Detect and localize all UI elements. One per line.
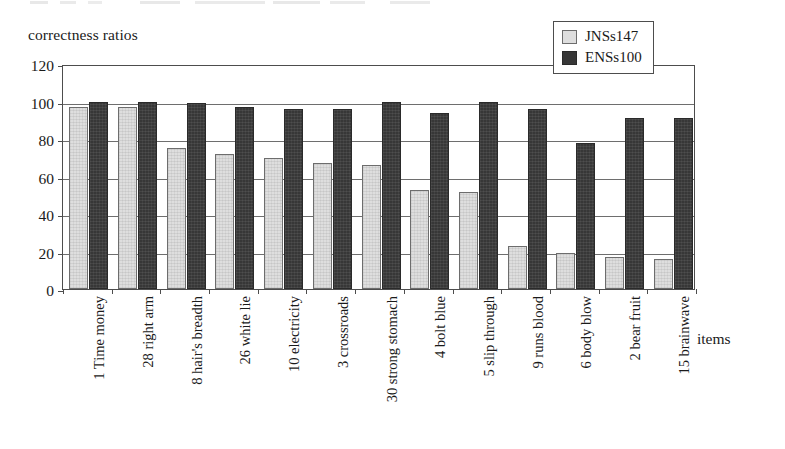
light-gray-swatch-icon (562, 30, 577, 44)
legend-item-jnss147: JNSs147 (562, 26, 642, 47)
x-tick-mark (355, 289, 356, 294)
x-category-label: 26 white lie (238, 296, 253, 364)
x-tick-mark (550, 289, 551, 294)
dark-gray-swatch-icon (562, 51, 577, 65)
bar-enss100-3 (235, 107, 254, 289)
bar-jnss147-3 (215, 154, 234, 289)
legend-label-jnss147: JNSs147 (585, 29, 638, 44)
bar-enss100-7 (430, 113, 449, 289)
x-tick-mark (599, 289, 600, 294)
legend-label-enss100: ENSs100 (585, 50, 642, 65)
x-category-label: 1 Time money (92, 296, 107, 380)
x-category-label: 6 body blow (579, 296, 594, 369)
x-tick-mark (647, 289, 648, 294)
plot-area: 020406080100120 (62, 65, 695, 290)
x-category-label: 9 runs blood (531, 296, 546, 369)
y-tick-label: 120 (31, 58, 54, 74)
x-category-label: 2 bear fruit (628, 296, 643, 360)
bar-jnss147-11 (605, 257, 624, 289)
bar-chart: correctness ratios 020406080100120 1 Tim… (0, 0, 785, 449)
bar-jnss147-5 (313, 163, 332, 289)
bar-jnss147-0 (69, 107, 88, 289)
x-tick-mark (160, 289, 161, 294)
bar-jnss147-8 (459, 192, 478, 290)
bar-enss100-0 (89, 102, 108, 290)
bar-jnss147-10 (556, 253, 575, 289)
bar-enss100-2 (187, 103, 206, 289)
bar-jnss147-6 (362, 165, 381, 289)
x-category-label: 4 bolt blue (433, 296, 448, 358)
x-category-label: 28 right arm (141, 296, 156, 368)
legend-item-enss100: ENSs100 (562, 47, 642, 68)
y-tick-label: 20 (39, 246, 55, 262)
x-axis-category-labels: 1 Time money28 right arm8 hair's breadth… (62, 296, 695, 446)
bar-jnss147-4 (264, 158, 283, 289)
y-tick-label: 60 (39, 171, 55, 187)
x-category-label: 8 hair's breadth (190, 296, 205, 385)
x-category-label: 10 electricity (287, 296, 302, 372)
bar-enss100-11 (625, 118, 644, 289)
y-tick-label: 80 (39, 133, 55, 149)
bar-jnss147-9 (508, 246, 527, 289)
y-tick-label: 40 (39, 208, 55, 224)
y-tick-label: 100 (31, 96, 54, 112)
x-tick-mark (404, 289, 405, 294)
bar-enss100-6 (382, 102, 401, 290)
x-category-label: 3 crossroads (336, 296, 351, 368)
x-tick-mark (501, 289, 502, 294)
bar-enss100-1 (138, 102, 157, 290)
x-tick-mark (306, 289, 307, 294)
bar-jnss147-2 (167, 148, 186, 289)
legend: JNSs147 ENSs100 (553, 21, 654, 74)
bars-group (63, 66, 694, 289)
bar-jnss147-7 (410, 190, 429, 289)
x-tick-mark (112, 289, 113, 294)
x-tick-mark (63, 289, 64, 294)
bar-enss100-9 (528, 109, 547, 289)
x-tick-mark (258, 289, 259, 294)
bar-enss100-5 (333, 109, 352, 289)
bar-enss100-12 (674, 118, 693, 289)
bar-jnss147-1 (118, 107, 137, 289)
bar-jnss147-12 (654, 259, 673, 289)
scan-artifact (30, 1, 430, 4)
x-category-label: 15 brainwave (677, 296, 692, 375)
x-tick-mark (696, 289, 697, 294)
x-axis-title: items (697, 330, 731, 348)
y-axis-title: correctness ratios (28, 26, 138, 44)
bar-enss100-10 (576, 143, 595, 289)
x-tick-mark (453, 289, 454, 294)
y-tick-label: 0 (46, 283, 54, 299)
x-tick-mark (209, 289, 210, 294)
bar-enss100-8 (479, 102, 498, 290)
x-category-label: 30 strong stomach (385, 296, 400, 402)
x-category-label: 5 slip through (482, 296, 497, 377)
bar-enss100-4 (284, 109, 303, 289)
